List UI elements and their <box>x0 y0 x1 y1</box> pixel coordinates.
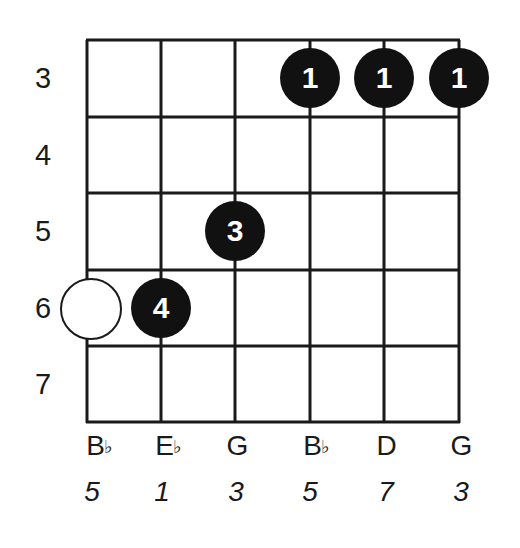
fret-number-6: 6 <box>28 294 58 323</box>
finger-dot: 3 <box>205 201 265 261</box>
fret-number-5: 5 <box>28 217 58 246</box>
string-interval: 1 <box>132 478 192 506</box>
finger-dot: 1 <box>429 48 489 108</box>
fret-number-4: 4 <box>28 141 58 170</box>
string-interval: 5 <box>62 478 122 506</box>
string-note: B♭ <box>286 432 346 460</box>
string-interval: 3 <box>206 478 266 506</box>
string-note: D <box>356 432 416 460</box>
chord-diagram: 3 4 5 6 7 1 1 1 3 4 B♭ E♭ G B♭ D G 5 1 3… <box>0 0 520 548</box>
finger-dot: 1 <box>280 48 340 108</box>
finger-dot: 4 <box>131 278 191 338</box>
string-note: G <box>431 432 491 460</box>
fret-number-3: 3 <box>28 64 58 93</box>
finger-dot: 1 <box>354 48 414 108</box>
string-interval: 5 <box>280 478 340 506</box>
string-note: B♭ <box>69 432 129 460</box>
string-note: E♭ <box>138 432 198 460</box>
string-interval: 3 <box>431 478 491 506</box>
fret-number-7: 7 <box>28 370 58 399</box>
string-interval: 7 <box>356 478 416 506</box>
optional-note-circle <box>60 278 122 340</box>
string-note: G <box>207 432 267 460</box>
